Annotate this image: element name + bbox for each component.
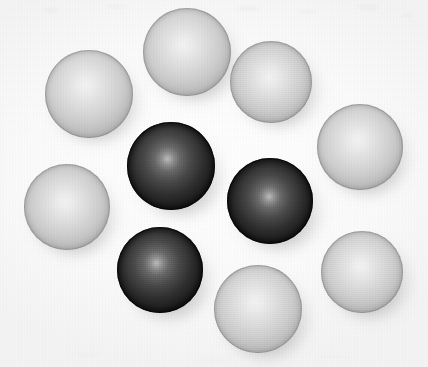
- image-canvas: [0, 0, 428, 367]
- paper-grain-overlay: [0, 0, 428, 367]
